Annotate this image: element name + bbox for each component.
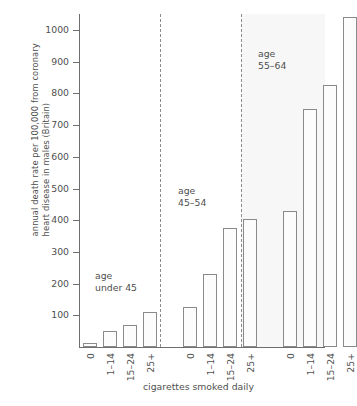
- x-tick-label: 15–24: [225, 353, 236, 381]
- x-tick-label: 15–24: [325, 353, 336, 381]
- x-axis-line: [79, 347, 325, 348]
- group-label-2: age 55–64: [258, 48, 286, 71]
- x-tick-label: 0: [285, 353, 296, 359]
- y-tick-label-500: 500: [31, 183, 69, 194]
- group-label-0: age under 45: [95, 270, 137, 293]
- x-tick-label: 1–14: [305, 353, 316, 375]
- bar: [343, 17, 357, 347]
- x-axis-title: cigarettes smoked daily: [143, 381, 254, 392]
- bar: [323, 85, 338, 347]
- y-tick-label-700: 700: [31, 119, 69, 130]
- x-tick-label: 25+: [245, 353, 256, 373]
- x-tick-label: 0: [185, 353, 196, 359]
- group-label-1: age 45–54: [178, 185, 206, 208]
- bars-container: [79, 14, 325, 347]
- x-tick-label: 1–14: [105, 353, 116, 375]
- bar: [183, 307, 198, 347]
- x-tick-label: 25+: [345, 353, 356, 373]
- x-tick-label: 25+: [145, 353, 156, 373]
- bar: [223, 228, 238, 347]
- x-tick-label: 15–24: [125, 353, 136, 381]
- y-tick-label-1000: 1000: [31, 24, 69, 35]
- y-tick-label-300: 300: [31, 246, 69, 257]
- y-tick-label-600: 600: [31, 151, 69, 162]
- y-tick-label-400: 400: [31, 214, 69, 225]
- x-tick-label: 0: [85, 353, 96, 359]
- x-tick-label: 1–14: [205, 353, 216, 375]
- y-tick-label-100: 100: [31, 309, 69, 320]
- y-tick-label-800: 800: [31, 87, 69, 98]
- bar: [303, 109, 318, 347]
- y-tick-label-900: 900: [31, 56, 69, 67]
- bar: [143, 312, 158, 347]
- bar: [283, 211, 298, 347]
- bar: [103, 331, 118, 347]
- bar: [243, 219, 258, 347]
- bar: [203, 274, 218, 347]
- bar: [123, 325, 138, 347]
- bar: [83, 343, 98, 347]
- y-tick-label-200: 200: [31, 278, 69, 289]
